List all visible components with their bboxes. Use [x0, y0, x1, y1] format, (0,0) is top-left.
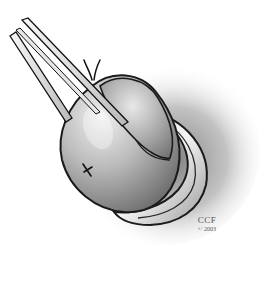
watermark-year: © 2003 [187, 226, 227, 232]
illustration: CCF © 2003 [0, 0, 260, 286]
surgical-illustration [0, 0, 260, 286]
watermark-org: CCF [187, 216, 227, 225]
forceps [10, 18, 128, 126]
copyright-watermark: CCF © 2003 [187, 216, 227, 232]
suture-knot [84, 60, 100, 80]
